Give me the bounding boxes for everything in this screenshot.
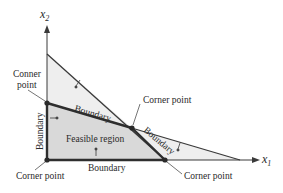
y-axis-arrow-icon [44, 25, 50, 33]
corner-label-top-left-line1: Conner [13, 69, 42, 79]
corner-label-top-left-line2: point [17, 80, 37, 90]
corner-label-bottom-right: Corner point [184, 171, 233, 181]
boundary-label-bottom: Boundary [88, 163, 126, 173]
y-axis-label: x2 [39, 7, 49, 23]
boundary-label-left: Boundary [35, 112, 45, 150]
feasible-region-label: Feasible region [66, 134, 125, 144]
corner-point-middle [129, 125, 134, 130]
x-axis-label: x1 [261, 152, 271, 168]
corner-label-bottom-left: Corner point [16, 171, 65, 181]
corner-point-bottom-right [162, 157, 167, 162]
corner-point-top-left [44, 100, 49, 105]
x-axis-arrow-icon [252, 157, 260, 163]
corner-point-bottom-left [44, 157, 49, 162]
corner-label-middle: Corner point [143, 95, 192, 105]
feasible-region-diagram: x2 x1 Conner point Corner point Corner p… [0, 0, 283, 193]
